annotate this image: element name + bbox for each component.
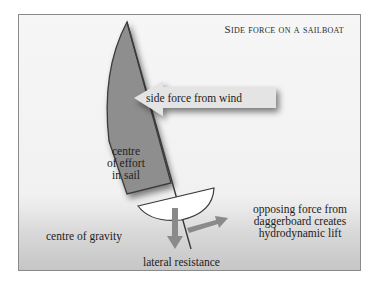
hydrodynamic-lift-label: opposing force from daggerboard creates … [235, 203, 361, 239]
lateral-resistance-label: lateral resistance [143, 256, 220, 268]
side-force-label: side force from wind [146, 92, 242, 104]
lift-arrow [187, 216, 228, 233]
centre-of-effort-label: centre of effort in sail [91, 145, 161, 181]
effort-line-1: centre [91, 145, 161, 157]
gravity-arrow-head [167, 236, 183, 249]
effort-line-2: of effort [91, 157, 161, 169]
centre-of-gravity-label: centre of gravity [46, 230, 122, 242]
diagram-frame: Side force on a sailboat side force from… [18, 14, 361, 271]
lift-line-2: daggerboard creates [235, 215, 361, 227]
gravity-arrow-shaft [172, 208, 178, 238]
lift-line-3: hydrodynamic lift [235, 227, 361, 239]
diagram-title: Side force on a sailboat [225, 23, 344, 35]
lift-line-1: opposing force from [235, 203, 361, 215]
effort-line-3: in sail [91, 169, 161, 181]
